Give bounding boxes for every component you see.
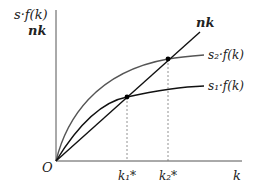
solow-diagram: s·f(k) nk nk s₂·f(k) s₁·f(k) O k₁* k₂* k	[0, 0, 260, 191]
k1-star-label: k₁*	[118, 169, 136, 183]
s1-fk-label: s₁·f(k)	[208, 79, 244, 93]
s2-fk-label: s₂·f(k)	[208, 48, 244, 62]
k2-star-label: k₂*	[159, 169, 177, 183]
origin-label: O	[42, 160, 53, 175]
s1-fk-curve	[56, 86, 204, 161]
y-axis-label-2: nk	[28, 23, 46, 38]
x-axis-label: k	[233, 168, 241, 183]
equilibrium-point-1	[125, 95, 130, 100]
equilibrium-point-2	[166, 57, 171, 62]
s2-fk-curve	[56, 55, 204, 161]
nk-label: nk	[196, 15, 214, 30]
y-axis-label-1: s·f(k)	[14, 7, 48, 22]
